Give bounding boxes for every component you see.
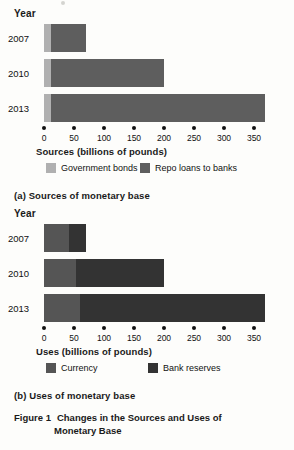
axis-label-year-a: Year bbox=[14, 8, 36, 19]
axis-tick-label: 200 bbox=[157, 333, 171, 343]
bar-row-label: 2010 bbox=[8, 268, 40, 279]
bar-segment bbox=[44, 94, 51, 122]
chart-panel-sources: Year 200720102013 050100150200250300350 … bbox=[0, 8, 294, 198]
legend-label: Repo loans to banks bbox=[155, 163, 237, 173]
figure-number: Figure 1 bbox=[14, 412, 51, 423]
stacked-bar bbox=[44, 59, 164, 87]
legend-label: Government bonds bbox=[61, 163, 138, 173]
legend-item: Repo loans to banks bbox=[140, 163, 237, 173]
bar-row-label: 2010 bbox=[8, 68, 40, 79]
axis-tick-label: 250 bbox=[187, 333, 201, 343]
axis-tick bbox=[132, 326, 136, 330]
axis-tick bbox=[102, 326, 106, 330]
legend-label: Bank reserves bbox=[163, 363, 221, 373]
x-axis-title-sources: Sources (billions of pounds) bbox=[36, 146, 167, 157]
stacked-bar bbox=[44, 224, 86, 252]
axis-tick-label: 300 bbox=[217, 333, 231, 343]
bar-segment bbox=[44, 59, 51, 87]
axis-tick bbox=[102, 126, 106, 130]
bar-segment bbox=[44, 259, 76, 287]
plot-area-uses: 200720102013 bbox=[0, 224, 294, 324]
x-axis-title-uses: Uses (billions of pounds) bbox=[36, 346, 152, 357]
axis-tick bbox=[162, 326, 166, 330]
bar-row-label: 2007 bbox=[8, 233, 40, 244]
axis-tick-label: 300 bbox=[217, 133, 231, 143]
axis-tick-label: 200 bbox=[157, 133, 171, 143]
legend-swatch-icon bbox=[140, 163, 150, 173]
bar-row-label: 2013 bbox=[8, 303, 40, 314]
panel-caption-sources: (a) Sources of monetary base bbox=[14, 190, 150, 201]
figure-title-line2: Monetary Base bbox=[54, 424, 282, 437]
legend-swatch-icon bbox=[148, 363, 158, 373]
axis-tick-label: 50 bbox=[69, 333, 78, 343]
figure-container: Year 200720102013 050100150200250300350 … bbox=[0, 0, 294, 450]
scan-artifact bbox=[61, 1, 65, 5]
axis-tick-label: 350 bbox=[247, 133, 261, 143]
axis-tick-label: 250 bbox=[187, 133, 201, 143]
axis-tick-label: 350 bbox=[247, 333, 261, 343]
legend-item: Government bonds bbox=[46, 163, 138, 173]
axis-tick bbox=[222, 326, 226, 330]
axis-tick bbox=[42, 326, 46, 330]
legend-swatch-icon bbox=[46, 363, 56, 373]
axis-tick-label: 100 bbox=[97, 133, 111, 143]
axis-tick bbox=[72, 126, 76, 130]
legend-uses: CurrencyBank reserves bbox=[0, 363, 294, 377]
axis-tick bbox=[222, 126, 226, 130]
axis-tick-label: 0 bbox=[42, 133, 47, 143]
axis-tick bbox=[132, 126, 136, 130]
stacked-bar bbox=[44, 94, 265, 122]
axis-tick bbox=[252, 126, 256, 130]
axis-tick bbox=[192, 126, 196, 130]
axis-tick-label: 150 bbox=[127, 133, 141, 143]
legend-item: Bank reserves bbox=[148, 363, 221, 373]
axis-tick-label: 150 bbox=[127, 333, 141, 343]
bar-segment bbox=[44, 24, 51, 52]
axis-tick bbox=[42, 126, 46, 130]
axis-tick bbox=[192, 326, 196, 330]
bar-row-label: 2007 bbox=[8, 33, 40, 44]
figure-title-line1: Changes in the Sources and Uses of bbox=[57, 412, 222, 423]
legend-label: Currency bbox=[61, 363, 98, 373]
chart-panel-uses: Year 200720102013 050100150200250300350 … bbox=[0, 208, 294, 393]
legend-item: Currency bbox=[46, 363, 98, 373]
bar-segment bbox=[76, 259, 164, 287]
legend-swatch-icon bbox=[46, 163, 56, 173]
bar-segment bbox=[80, 294, 265, 322]
axis-tick bbox=[72, 326, 76, 330]
stacked-bar bbox=[44, 259, 164, 287]
plot-area-sources: 200720102013 bbox=[0, 24, 294, 124]
axis-tick-label: 50 bbox=[69, 133, 78, 143]
axis-tick-label: 100 bbox=[97, 333, 111, 343]
legend-sources: Government bondsRepo loans to banks bbox=[0, 163, 294, 177]
bar-segment bbox=[51, 94, 265, 122]
axis-tick bbox=[162, 126, 166, 130]
axis-tick-label: 0 bbox=[42, 333, 47, 343]
bar-segment bbox=[44, 294, 80, 322]
bar-segment bbox=[69, 224, 86, 252]
figure-caption: Figure 1Changes in the Sources and Uses … bbox=[14, 411, 282, 437]
bar-segment bbox=[51, 59, 164, 87]
bar-row-label: 2013 bbox=[8, 103, 40, 114]
axis-tick bbox=[252, 326, 256, 330]
bar-segment bbox=[51, 24, 86, 52]
stacked-bar bbox=[44, 24, 86, 52]
axis-label-year-b: Year bbox=[14, 208, 36, 219]
stacked-bar bbox=[44, 294, 265, 322]
bar-segment bbox=[44, 224, 69, 252]
panel-caption-uses: (b) Uses of monetary base bbox=[14, 390, 135, 401]
